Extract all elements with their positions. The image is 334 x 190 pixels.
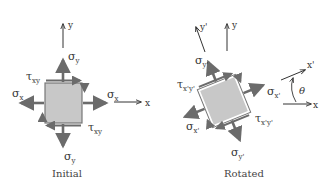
stress-transformation-diagram: y x σy σy σx σx τxy τxy Initial y' y x' xyxy=(0,0,334,190)
sigma-x-prime-right-arrow xyxy=(243,85,262,93)
tau-x-prime-y-prime-top-label: τx'y' xyxy=(177,78,195,93)
tau-xy-bottom-label: τxy xyxy=(88,121,102,136)
sigma-y-bottom-label: σy xyxy=(64,150,76,165)
sigma-y-prime-bottom-arrow xyxy=(232,120,240,139)
initial-caption: Initial xyxy=(52,168,82,179)
initial-y-axis-label: y xyxy=(67,20,74,30)
theta-label: θ xyxy=(299,85,305,96)
theta-arc xyxy=(292,78,296,102)
sigma-x-left-label: σx xyxy=(12,87,24,102)
initial-element-group: y x σy σy σx σx τxy τxy Initial xyxy=(12,20,150,179)
initial-x-axis-label: x xyxy=(145,98,150,108)
initial-stress-element xyxy=(45,83,82,123)
sigma-y-prime-top-arrow xyxy=(208,62,216,81)
sigma-y-prime-top-label: σy' xyxy=(195,54,208,69)
sigma-y-prime-bottom-label: σy' xyxy=(231,146,244,161)
sigma-x-prime-right-label: σx' xyxy=(267,85,280,100)
rotated-x-axis-label: x xyxy=(313,100,318,110)
tau-x-prime-y-prime-bottom-label: τx'y' xyxy=(255,112,273,127)
sigma-x-prime-left-label: σx' xyxy=(186,120,199,135)
rotated-y-axis-label: y xyxy=(231,20,238,30)
rotated-y-prime-label: y' xyxy=(199,22,208,32)
rotated-caption: Rotated xyxy=(224,168,264,179)
sigma-x-prime-left-arrow xyxy=(185,109,204,117)
sigma-x-right-label: σx xyxy=(107,88,119,103)
sigma-y-top-label: σy xyxy=(68,50,80,65)
rotated-element-group: y' y x' x θ σy' σy' σx' σx' τx'y xyxy=(169,20,318,179)
tau-xy-top-label: τxy xyxy=(26,70,40,85)
rotated-x-prime-label: x' xyxy=(307,60,315,70)
